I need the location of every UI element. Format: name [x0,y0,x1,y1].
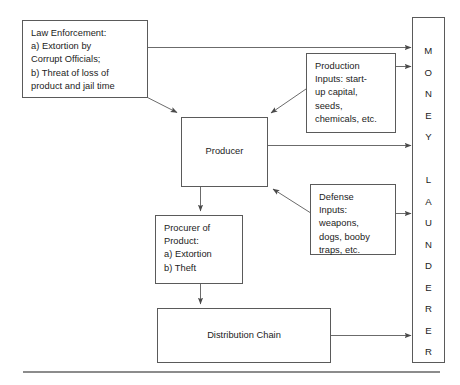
node-production-inputs-label: Production Inputs: start- up capital, se… [307,54,395,126]
node-money-launderer: M O N E Y L A U N D E R E R [412,17,445,363]
node-producer-label: Producer [206,145,244,158]
node-distribution-chain: Distribution Chain [157,308,331,363]
node-procurer-of-product: Procurer of Product: a) Extortion b) The… [155,215,243,284]
node-production-inputs: Production Inputs: start- up capital, se… [306,53,396,133]
edge-law-enforcement-to-producer [148,98,178,113]
node-producer: Producer [181,117,268,187]
page-divider-rule [23,371,440,373]
edge-production-inputs-to-producer [271,89,306,113]
node-law-enforcement-label: Law Enforcement: a) Extortion by Corrupt… [23,21,147,93]
node-money-launderer-label: M O N E Y L A U N D E R E R [424,40,432,363]
edge-defense-inputs-to-producer [273,189,310,213]
node-law-enforcement: Law Enforcement: a) Extortion by Corrupt… [22,20,148,98]
flow-diagram-canvas: Law Enforcement: a) Extortion by Corrupt… [0,0,460,385]
node-procurer-of-product-label: Procurer of Product: a) Extortion b) The… [156,216,242,275]
node-distribution-chain-label: Distribution Chain [207,329,281,342]
node-defense-inputs: Defense Inputs: weapons, dogs, booby tra… [310,184,396,255]
node-defense-inputs-label: Defense Inputs: weapons, dogs, booby tra… [311,185,395,257]
